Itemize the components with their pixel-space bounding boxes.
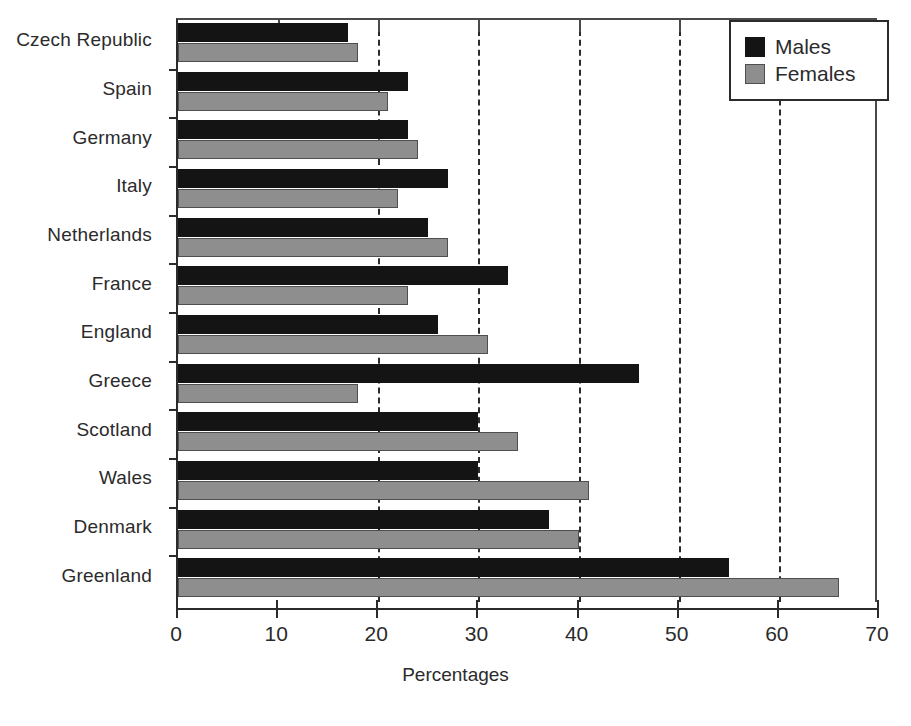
x-tick-label-10: 10 (264, 622, 287, 646)
x-tick-70 (877, 600, 879, 618)
bar-female (178, 92, 388, 111)
x-tick-label-70: 70 (865, 622, 888, 646)
gridline-60 (779, 20, 781, 602)
bar-female (178, 189, 398, 208)
bar-male (178, 169, 448, 188)
x-tick-60 (777, 600, 779, 618)
bar-male (178, 23, 348, 42)
bar-chart: Czech RepublicSpainGermanyItalyNetherlan… (0, 0, 911, 726)
category-tick (169, 458, 178, 460)
bar-male (178, 218, 428, 237)
bar-female (178, 578, 839, 597)
bar-male (178, 412, 478, 431)
x-tick-label-30: 30 (465, 622, 488, 646)
bar-male (178, 558, 729, 577)
x-axis-line (176, 608, 877, 610)
legend-label: Females (775, 62, 856, 86)
bar-female (178, 432, 518, 451)
category-tick (169, 215, 178, 217)
x-tick-20 (376, 600, 378, 618)
bar-male (178, 120, 408, 139)
top-tick-30 (478, 20, 480, 32)
x-tick-label-50: 50 (665, 622, 688, 646)
bar-male (178, 510, 549, 529)
category-tick (169, 507, 178, 509)
bar-male (178, 72, 408, 91)
bar-male (178, 364, 639, 383)
x-axis-title: Percentages (0, 664, 911, 686)
category-label: Czech Republic (16, 29, 166, 51)
category-tick (169, 361, 178, 363)
category-label: Scotland (76, 419, 166, 441)
category-label: Netherlands (47, 224, 166, 246)
category-tick (169, 117, 178, 119)
category-tick (169, 166, 178, 168)
bar-male (178, 461, 478, 480)
category-tick (169, 312, 178, 314)
bar-female (178, 384, 358, 403)
x-tick-0 (176, 600, 178, 618)
gridline-40 (579, 20, 581, 602)
x-tick-10 (276, 600, 278, 618)
bar-female (178, 335, 488, 354)
category-tick (169, 69, 178, 71)
category-label: England (81, 321, 166, 343)
legend: MalesFemales (729, 20, 889, 101)
bar-female (178, 530, 579, 549)
x-tick-40 (577, 600, 579, 618)
legend-item-males: Males (745, 35, 875, 59)
bar-male (178, 266, 508, 285)
top-tick-20 (378, 20, 380, 32)
x-tick-label-0: 0 (170, 622, 182, 646)
top-tick-50 (679, 20, 681, 32)
legend-swatch-males-icon (745, 37, 765, 57)
legend-swatch-females-icon (745, 64, 765, 84)
x-tick-30 (476, 600, 478, 618)
category-label: France (92, 273, 166, 295)
category-label: Spain (102, 78, 166, 100)
legend-item-females: Females (745, 62, 875, 86)
category-label: Greece (88, 370, 166, 392)
category-axis-labels: Czech RepublicSpainGermanyItalyNetherlan… (0, 18, 166, 602)
category-tick (169, 263, 178, 265)
x-tick-label-20: 20 (365, 622, 388, 646)
x-tick-50 (677, 600, 679, 618)
bar-female (178, 238, 448, 257)
plot-area (176, 18, 877, 602)
top-tick-40 (579, 20, 581, 32)
category-label: Denmark (74, 516, 166, 538)
legend-label: Males (775, 35, 831, 59)
category-label: Germany (72, 127, 166, 149)
bar-female (178, 286, 408, 305)
category-label: Italy (116, 175, 166, 197)
x-tick-label-60: 60 (765, 622, 788, 646)
category-tick (169, 555, 178, 557)
category-label: Greenland (61, 565, 166, 587)
bar-male (178, 315, 438, 334)
bar-female (178, 140, 418, 159)
category-tick (169, 409, 178, 411)
gridline-50 (679, 20, 681, 602)
bar-female (178, 481, 589, 500)
category-label: Wales (99, 467, 166, 489)
bar-female (178, 43, 358, 62)
x-tick-label-40: 40 (565, 622, 588, 646)
